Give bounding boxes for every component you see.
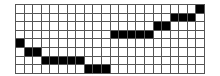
grid-cell — [187, 4, 196, 13]
grid-cell — [41, 13, 50, 22]
grid-cell — [24, 4, 33, 13]
grid-cell-filled — [144, 30, 153, 39]
grid-cell — [135, 64, 144, 73]
grid-cell — [101, 4, 110, 13]
grid-cell — [144, 56, 153, 65]
grid-cell — [24, 30, 33, 39]
grid-cell — [41, 64, 50, 73]
grid-cell — [58, 21, 67, 30]
grid-cell — [75, 38, 84, 47]
grid-cell — [170, 21, 179, 30]
grid-cell — [118, 64, 127, 73]
grid-cell — [195, 30, 204, 39]
grid-cell — [110, 13, 119, 22]
grid-cell — [15, 64, 24, 73]
grid-cell-filled — [15, 38, 24, 47]
grid-cell — [161, 13, 170, 22]
grid-cell — [58, 30, 67, 39]
grid-cell — [58, 4, 67, 13]
grid-cell — [49, 13, 58, 22]
grid-cell — [15, 4, 24, 13]
grid-cell — [195, 56, 204, 65]
grid-cell — [58, 38, 67, 47]
pixel-grid — [15, 4, 205, 74]
grid-cell-filled — [110, 30, 119, 39]
grid-cell — [144, 64, 153, 73]
grid-cell — [101, 13, 110, 22]
grid-cell — [161, 56, 170, 65]
grid-cell — [67, 4, 76, 13]
grid-cell — [127, 47, 136, 56]
grid-cell-filled — [127, 30, 136, 39]
grid-cell — [187, 21, 196, 30]
grid-cell — [32, 56, 41, 65]
grid-cell — [135, 47, 144, 56]
grid-cell — [84, 4, 93, 13]
grid-cell — [127, 38, 136, 47]
grid-cell — [15, 56, 24, 65]
grid-cell — [170, 47, 179, 56]
grid-cell — [49, 30, 58, 39]
grid-cell — [24, 21, 33, 30]
grid-cell — [127, 21, 136, 30]
grid-cell — [84, 38, 93, 47]
grid-cell — [67, 38, 76, 47]
grid-cell — [170, 30, 179, 39]
grid-cell — [41, 21, 50, 30]
grid-cell — [127, 64, 136, 73]
grid-cell — [187, 64, 196, 73]
grid-cell-filled — [161, 21, 170, 30]
grid-cell — [67, 47, 76, 56]
grid-cell-filled — [101, 64, 110, 73]
grid-cell — [32, 4, 41, 13]
grid-cell — [144, 21, 153, 30]
grid-cell-filled — [135, 30, 144, 39]
grid-cell — [15, 47, 24, 56]
grid-cell — [24, 56, 33, 65]
grid-cell — [178, 4, 187, 13]
grid-cell-filled — [58, 56, 67, 65]
grid-cell — [15, 13, 24, 22]
grid-cell — [110, 64, 119, 73]
grid-cell — [195, 13, 204, 22]
grid-cell — [170, 56, 179, 65]
grid-cell — [195, 21, 204, 30]
grid-cell-filled — [75, 56, 84, 65]
grid-cell — [15, 30, 24, 39]
grid-cell — [32, 64, 41, 73]
grid-cell — [153, 38, 162, 47]
grid-cell — [161, 38, 170, 47]
grid-cell — [110, 47, 119, 56]
grid-cell — [195, 38, 204, 47]
grid-cell — [67, 30, 76, 39]
grid-cell — [144, 47, 153, 56]
grid-cell — [118, 21, 127, 30]
grid-cell — [170, 38, 179, 47]
grid-cell — [161, 30, 170, 39]
grid-cell — [15, 21, 24, 30]
grid-cell — [92, 47, 101, 56]
grid-cell-filled — [170, 13, 179, 22]
grid-cell — [58, 47, 67, 56]
grid-cell — [187, 47, 196, 56]
grid-cell — [24, 13, 33, 22]
grid-cell — [187, 56, 196, 65]
grid-cell — [153, 56, 162, 65]
grid-cell — [67, 21, 76, 30]
grid-cell — [178, 56, 187, 65]
grid-cell — [153, 47, 162, 56]
grid-cell — [161, 47, 170, 56]
grid-cell — [195, 47, 204, 56]
grid-cell — [135, 56, 144, 65]
grid-cell — [84, 30, 93, 39]
grid-cell — [178, 64, 187, 73]
grid-cell — [127, 13, 136, 22]
grid-cell — [135, 21, 144, 30]
grid-cell-filled — [49, 56, 58, 65]
grid-cell — [32, 38, 41, 47]
grid-cell — [49, 47, 58, 56]
grid-cell — [110, 56, 119, 65]
grid-cell — [101, 38, 110, 47]
grid-cell — [84, 47, 93, 56]
grid-cell-filled — [153, 21, 162, 30]
